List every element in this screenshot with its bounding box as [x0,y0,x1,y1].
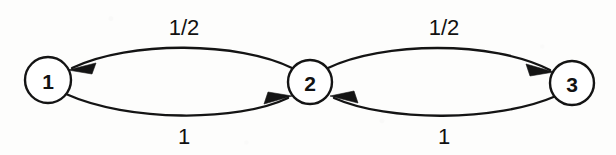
edge-1-to-2-path [66,94,288,116]
edge-2-to-1 [68,48,292,74]
markov-chain-diagram: 1 2 3 1/2 1 1/2 1 [0,0,616,155]
edge-label-1-to-2: 1 [178,124,190,149]
edge-label-2-to-1: 1/2 [169,15,200,40]
edge-3-to-2-path [334,96,556,116]
edge-2-to-3-path [328,48,550,70]
diagram-canvas: 1 2 3 1/2 1 1/2 1 [0,0,616,155]
edge-1-to-2 [66,92,292,116]
node-1[interactable]: 1 [25,57,71,103]
edge-3-to-2 [330,91,556,116]
edge-2-to-3 [328,48,554,76]
node-2[interactable]: 2 [288,60,332,104]
edge-label-3-to-2: 1 [438,124,450,149]
node-1-label: 1 [42,70,54,93]
edge-label-2-to-3: 1/2 [429,15,460,40]
node-3-label: 3 [566,73,578,96]
edge-2-to-1-path [72,48,292,68]
node-2-label: 2 [304,72,316,95]
node-3[interactable]: 3 [550,61,594,105]
